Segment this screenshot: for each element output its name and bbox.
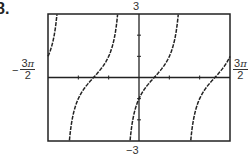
graph-plot [0,0,251,164]
axes [48,14,230,141]
